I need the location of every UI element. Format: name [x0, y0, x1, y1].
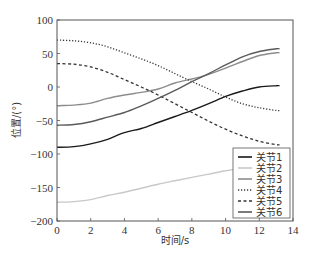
series-line-joint-3	[57, 53, 280, 106]
series-line-joint-2	[57, 169, 234, 202]
x-tick-label: 10	[220, 224, 232, 236]
y-tick-label: −200	[30, 215, 53, 227]
y-tick-label: 100	[37, 14, 54, 26]
legend-label: 关节1	[256, 151, 282, 163]
x-tick-label: 14	[288, 224, 300, 236]
x-tick-label: 2	[88, 224, 94, 236]
x-tick-label: 12	[254, 224, 265, 236]
series-line-joint-1	[57, 86, 280, 148]
y-tick-label: 50	[42, 48, 54, 60]
joint-position-chart: 02468101214100500−50−100−150−200 时间/s 位置…	[0, 0, 316, 257]
legend-label: 关节5	[256, 195, 282, 207]
legend: 关节1关节2关节3关节4关节5关节6	[233, 148, 290, 218]
y-axis-label: 位置/(°)	[10, 102, 22, 138]
x-tick-label: 8	[189, 224, 195, 236]
y-tick-label: −50	[36, 115, 54, 127]
y-tick-label: 0	[48, 81, 54, 93]
y-tick-label: −150	[30, 182, 53, 194]
x-axis-label: 时间/s	[161, 234, 190, 246]
legend-label: 关节6	[256, 206, 282, 218]
y-tick-label: −100	[30, 148, 53, 160]
x-tick-label: 4	[122, 224, 128, 236]
legend-label: 关节4	[256, 184, 282, 196]
legend-label: 关节2	[256, 162, 282, 174]
legend-label: 关节3	[256, 173, 282, 185]
x-tick-label: 0	[54, 224, 60, 236]
